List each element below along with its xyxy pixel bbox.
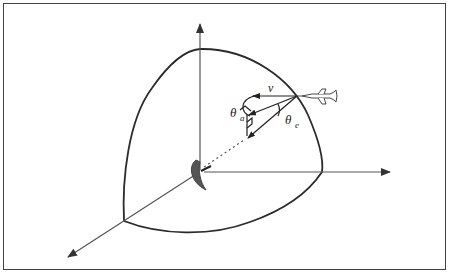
right-angle-marker: [240, 106, 251, 111]
elevation-label: θ: [285, 112, 292, 127]
aircraft-icon: [296, 89, 337, 104]
velocity-label: v: [268, 81, 274, 95]
elevation-arc: [278, 104, 280, 116]
coverage-surface: [124, 49, 323, 232]
zigzag-marker: [247, 118, 252, 128]
surface-left-arc: [124, 49, 200, 221]
y-axis: [68, 173, 198, 257]
axes: [68, 24, 390, 257]
line-of-sight-dotted: [204, 140, 244, 167]
azimuth-label: θ: [230, 105, 237, 120]
radar-geometry-diagram: v θ a θ e: [0, 0, 452, 275]
elevation-subscript: e: [295, 120, 299, 130]
azimuth-subscript: a: [240, 113, 245, 123]
radar-dish-icon: [191, 160, 211, 190]
